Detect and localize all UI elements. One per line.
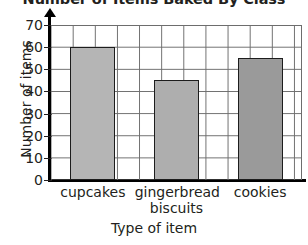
chart-title: Number of Items Baked By Class xyxy=(0,0,308,7)
grid-right-border xyxy=(301,25,302,180)
y-axis-tick-label: 30 xyxy=(0,107,43,121)
y-axis-tick-label: 70 xyxy=(0,18,43,32)
x-axis-tick-label: biscuits xyxy=(135,201,219,217)
x-axis-category-cupcakes: cupcakes xyxy=(51,185,135,201)
bar-chart: Number of Items Baked By Class Number of… xyxy=(0,0,308,245)
x-axis-tick-label: cupcakes xyxy=(51,185,135,201)
x-axis-title: Type of item xyxy=(0,220,308,236)
grid-top-border xyxy=(51,25,302,26)
y-axis-tick-label: 20 xyxy=(0,129,43,143)
y-axis-tick-label: 60 xyxy=(0,40,43,54)
y-axis-tick-label: 10 xyxy=(0,151,43,165)
y-axis-tick-label: 50 xyxy=(0,62,43,76)
plot-area xyxy=(51,25,302,180)
x-axis-category-gingerbread-biscuits: gingerbreadbiscuits xyxy=(135,185,219,216)
x-axis-tick-label: cookies xyxy=(218,185,302,201)
x-axis-category-cookies: cookies xyxy=(218,185,302,201)
bar-cupcakes xyxy=(70,47,115,180)
x-axis-tick-label: gingerbread xyxy=(135,185,219,201)
bar-gingerbread-biscuits xyxy=(154,80,199,180)
y-axis-tick-label: 0 xyxy=(0,173,43,187)
y-axis-tick-label: 40 xyxy=(0,84,43,98)
bar-cookies xyxy=(238,58,283,180)
x-axis-category-labels: cupcakesgingerbreadbiscuitscookies xyxy=(48,185,306,219)
y-axis-tick-mark xyxy=(44,180,52,181)
